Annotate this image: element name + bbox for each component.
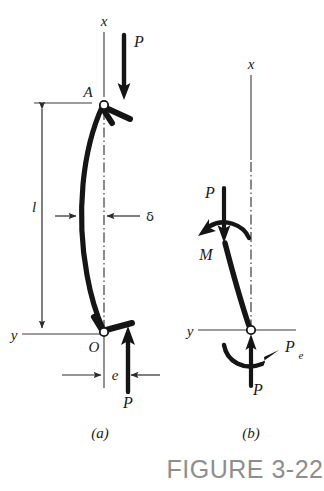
panel-b-axis-y-label: y bbox=[185, 323, 194, 339]
panel-a-eccentricity-label: e bbox=[112, 367, 119, 383]
panel-b-hinge-pin bbox=[247, 326, 255, 334]
panel-a-axis-y-label: y bbox=[9, 327, 18, 343]
panel-a-top-force-label: P bbox=[133, 33, 144, 50]
panel-a-top-hinge-pin bbox=[100, 101, 108, 109]
panel-b: x y P M P P e (b) bbox=[185, 56, 304, 442]
panel-a-point-o-label: O bbox=[89, 339, 100, 355]
panel-a-deflected-column bbox=[82, 105, 103, 329]
panel-a-sublabel: (a) bbox=[91, 425, 109, 442]
panel-b-sublabel: (b) bbox=[242, 425, 260, 442]
figure-3-22: x y l δ A P O bbox=[0, 0, 324, 491]
panel-a-deflection-label: δ bbox=[146, 209, 154, 224]
panel-b-top-moment-arrowhead bbox=[198, 219, 216, 236]
panel-a-point-a-label: A bbox=[82, 84, 93, 100]
panel-b-top-moment-label: M bbox=[198, 246, 214, 263]
figure-svg: x y l δ A P O bbox=[0, 0, 324, 491]
panel-b-bottom-force-label: P bbox=[252, 381, 263, 398]
panel-a-bottom-force-label: P bbox=[122, 394, 133, 411]
panel-a: x y l δ A P O bbox=[9, 13, 160, 442]
panel-b-bottom-moment-arc bbox=[224, 345, 262, 366]
figure-caption: FIGURE 3-22 bbox=[167, 455, 324, 483]
panel-b-axis-x-label: x bbox=[247, 56, 255, 72]
panel-a-axis-x-label: x bbox=[100, 13, 108, 29]
panel-a-length-label: l bbox=[32, 199, 36, 215]
panel-b-top-moment-arc bbox=[210, 222, 249, 238]
panel-b-bottom-moment-label: P bbox=[284, 338, 295, 355]
panel-a-bottom-hinge-pin bbox=[100, 328, 108, 336]
panel-b-column-segment bbox=[225, 243, 249, 326]
panel-b-bottom-moment-subscript: e bbox=[299, 349, 304, 361]
panel-b-top-force-label: P bbox=[204, 184, 215, 201]
